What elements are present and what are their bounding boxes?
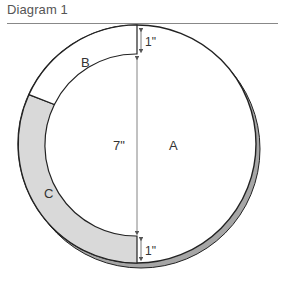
dim-diameter-label: 7" — [113, 138, 125, 153]
label-b: B — [81, 55, 90, 70]
circle-diagram: B A C 1" 7" 1" — [0, 0, 282, 287]
dim-top-label: 1" — [145, 35, 156, 49]
label-c: C — [44, 186, 53, 201]
label-a: A — [169, 138, 178, 153]
dim-bottom-label: 1" — [145, 244, 156, 258]
